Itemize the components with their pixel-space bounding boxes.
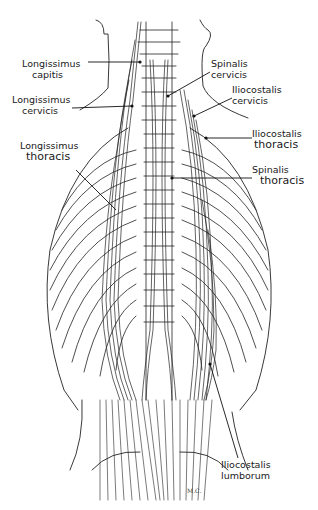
label-line2: capitis [22,69,80,80]
label-iliocostalis-thoracis: Iliocostalis thoracis [252,128,302,150]
label-longissimus-cervicis: Longissimus cervicis [12,94,70,116]
label-line1: Longissimus [22,58,80,69]
artist-signature: M.C. [187,487,201,494]
label-line2: cervicis [12,105,70,116]
label-line1: Spinalis [211,58,248,69]
label-line2: thoracis [252,139,302,150]
label-line2: lumborum [221,470,271,481]
label-line1: Iliocostalis [221,459,271,470]
label-line1: Longissimus [12,94,70,105]
label-longissimus-thoracis: Longissimus thoracis [20,140,78,162]
label-longissimus-capitis: Longissimus capitis [22,58,80,80]
label-line2: cervicis [211,69,248,80]
label-spinalis-cervicis: Spinalis cervicis [211,58,248,80]
label-line1: Iliocostalis [232,84,282,95]
anatomy-diagram: Longissimus capitis Longissimus cervicis… [0,0,318,510]
label-spinalis-thoracis: Spinalis thoracis [252,164,304,186]
label-iliocostalis-cervicis: Iliocostalis cervicis [232,84,282,106]
label-line2: thoracis [20,151,78,162]
label-line2: thoracis [252,175,304,186]
label-iliocostalis-lumborum: Iliocostalis lumborum [221,459,271,481]
label-line2: cervicis [232,95,282,106]
